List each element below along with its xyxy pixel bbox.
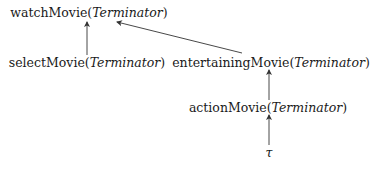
node-actionMovie: actionMovie(Terminator): [189, 101, 347, 115]
node-predicate: actionMovie(: [189, 100, 272, 115]
node-predicate: entertainingMovie(: [172, 55, 294, 70]
node-selectMovie: selectMovie(Terminator): [9, 56, 165, 70]
node-close: ): [342, 100, 347, 115]
node-argument: Terminator: [90, 55, 161, 70]
node-close: ): [163, 5, 168, 20]
node-close: ): [365, 55, 370, 70]
node-close: ): [160, 55, 165, 70]
node-watchMovie: watchMovie(Terminator): [10, 6, 167, 20]
tau-symbol: τ: [266, 145, 273, 160]
node-entertainingMovie: entertainingMovie(Terminator): [172, 56, 370, 70]
node-argument: Terminator: [294, 55, 365, 70]
node-argument: Terminator: [272, 100, 343, 115]
edge-entertainingMovie-to-watchMovie: [117, 22, 242, 53]
node-predicate: watchMovie(: [10, 5, 92, 20]
node-predicate: selectMovie(: [9, 55, 90, 70]
node-tau: τ: [266, 146, 273, 160]
node-argument: Terminator: [92, 5, 163, 20]
